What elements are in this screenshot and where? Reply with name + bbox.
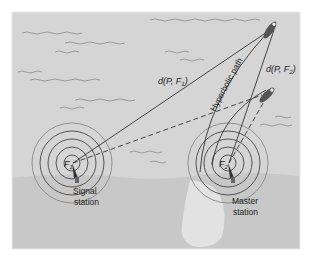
label-signal-station-2: station bbox=[74, 197, 99, 207]
label-master-station-2: station bbox=[233, 207, 258, 217]
label-master-station-1: Master bbox=[232, 196, 258, 206]
label-signal-station-1: Signal bbox=[73, 186, 97, 196]
loran-diagram: d(P, F1) d(P, F2) Hyperbolic path F1 F2 … bbox=[0, 0, 315, 270]
